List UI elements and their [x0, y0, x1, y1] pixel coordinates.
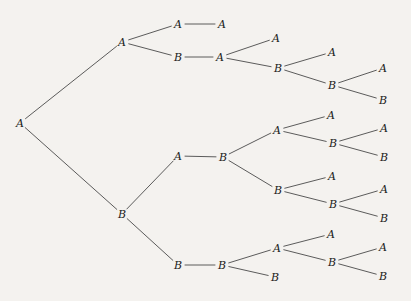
tree-leaf-node: B — [271, 272, 279, 283]
tree-diagram: AABAABAABABABABAABABBABABBBAABABB — [0, 0, 411, 301]
tree-branch-node: A — [118, 37, 126, 48]
tree-branch-node: A — [216, 52, 224, 63]
tree-branch-node: A — [174, 151, 182, 162]
tree-branch-node: A — [16, 118, 24, 129]
tree-leaf-node: B — [379, 95, 387, 106]
tree-node-layer: AABAABAABABABABAABABBABABBBAABABB — [0, 0, 411, 301]
tree-branch-node: B — [174, 52, 182, 63]
tree-branch-node: A — [174, 19, 182, 30]
tree-leaf-node: A — [327, 110, 335, 121]
tree-branch-node: A — [273, 243, 281, 254]
tree-leaf-node: A — [380, 184, 388, 195]
tree-leaf-node: A — [328, 47, 336, 58]
tree-branch-node: B — [218, 260, 226, 271]
tree-leaf-node: B — [379, 271, 387, 282]
tree-leaf-node: B — [380, 152, 388, 163]
tree-leaf-node: A — [379, 63, 387, 74]
tree-branch-node: B — [274, 63, 282, 74]
tree-leaf-node: A — [379, 242, 387, 253]
tree-leaf-node: B — [380, 213, 388, 224]
tree-branch-node: B — [328, 257, 336, 268]
tree-branch-node: B — [328, 80, 336, 91]
tree-branch-node: A — [273, 125, 281, 136]
tree-leaf-node: A — [380, 123, 388, 134]
tree-leaf-node: A — [218, 19, 226, 30]
tree-leaf-node: A — [272, 33, 280, 44]
tree-leaf-node: A — [328, 171, 336, 182]
tree-branch-node: B — [118, 209, 126, 220]
tree-branch-node: B — [329, 199, 337, 210]
tree-branch-node: B — [329, 138, 337, 149]
tree-branch-node: B — [174, 260, 182, 271]
tree-leaf-node: A — [327, 229, 335, 240]
tree-branch-node: B — [219, 152, 227, 163]
tree-branch-node: B — [274, 185, 282, 196]
